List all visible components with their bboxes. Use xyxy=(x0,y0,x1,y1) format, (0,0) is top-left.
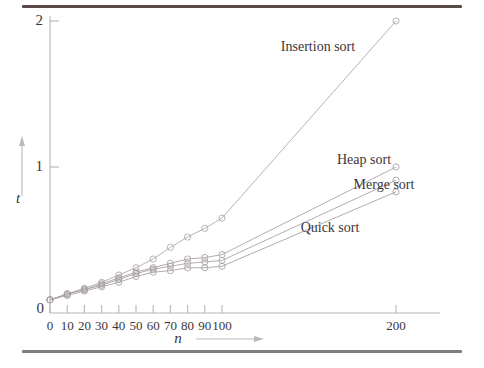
x-tick-label-40: 40 xyxy=(112,319,125,332)
series-label-quick-sort: Quick sort xyxy=(301,221,360,235)
t-axis-arrow-head xyxy=(19,136,25,146)
y-tick-label-1: 1 xyxy=(36,159,44,174)
n-axis-arrow-head xyxy=(254,336,264,342)
x-tick-label-100: 100 xyxy=(212,319,232,332)
series-label-merge-sort: Merge sort xyxy=(354,178,415,192)
x-tick-label-80: 80 xyxy=(181,319,194,332)
series-label-heap-sort: Heap sort xyxy=(337,153,391,167)
x-tick-label-20: 20 xyxy=(78,319,91,332)
x-tick-label-0: 0 xyxy=(47,319,54,332)
x-axis-label-n: n xyxy=(174,331,182,346)
x-tick-label-10: 10 xyxy=(61,319,74,332)
x-tick-label-50: 50 xyxy=(130,319,143,332)
x-tick-label-60: 60 xyxy=(147,319,160,332)
y-tick-label-0: 0 xyxy=(37,301,45,316)
x-tick-label-30: 30 xyxy=(95,319,108,332)
figure-container: 0120102030405060708090100200tnInsertion … xyxy=(0,0,484,368)
y-tick-label-2: 2 xyxy=(36,13,44,28)
series-label-insertion-sort: Insertion sort xyxy=(281,40,355,54)
x-tick-label-90: 90 xyxy=(198,319,211,332)
y-axis-label-t: t xyxy=(16,191,20,206)
x-tick-label-200: 200 xyxy=(386,319,406,332)
